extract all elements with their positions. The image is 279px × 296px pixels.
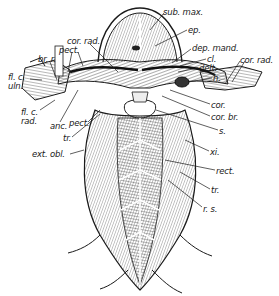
anatomical-figure: sub. max. ep. cor. rad. pect. br. r. dep… bbox=[0, 0, 279, 296]
label-cor-rad-right: cor. rad. bbox=[240, 56, 273, 65]
label-ext-obl: ext. obl. bbox=[32, 150, 65, 159]
label-cor: cor. bbox=[211, 101, 226, 110]
label-tr-right: tr. bbox=[211, 186, 219, 195]
label-xi: xi. bbox=[210, 148, 220, 157]
label-pect-top: pect. bbox=[59, 46, 79, 55]
label-br-r: br. r. bbox=[38, 55, 56, 64]
label-pect-bottom: pect. bbox=[69, 119, 89, 128]
label-tr-left: tr. bbox=[63, 134, 71, 143]
label-sub-max: sub. max. bbox=[163, 8, 203, 17]
label-anc: anc. bbox=[50, 122, 67, 131]
label-h: h. bbox=[213, 74, 221, 83]
label-cor-br: cor. br. bbox=[211, 113, 238, 122]
label-ep: ep. bbox=[188, 26, 201, 35]
label-delt: delt. bbox=[199, 64, 217, 73]
label-r-s: r. s. bbox=[203, 205, 217, 214]
label-rect: rect. bbox=[216, 167, 234, 176]
label-dep-mand: dep. mand. bbox=[192, 44, 238, 53]
label-fl-c-rad-line2: rad. bbox=[21, 117, 37, 126]
label-s: s. bbox=[219, 127, 226, 136]
label-fl-c-uln-line2: uln. bbox=[8, 82, 23, 91]
